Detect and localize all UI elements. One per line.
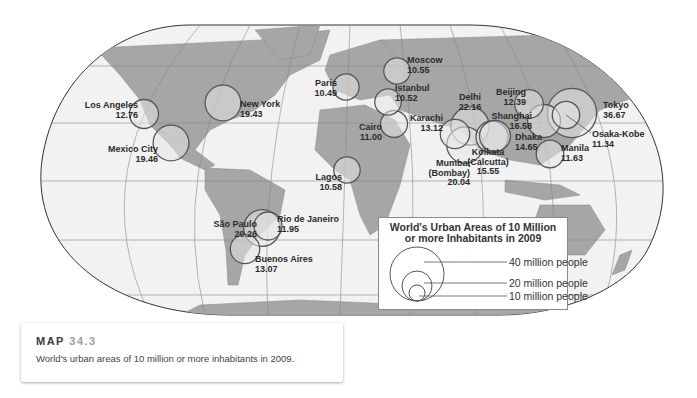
city-circle-karachi	[440, 119, 469, 148]
legend-circle-10	[409, 285, 425, 301]
city-label-delhi: Delhi22.16	[459, 92, 482, 112]
city-label-tokyo: Tokyo36.67	[603, 100, 629, 120]
caption-title: MAP 34.3	[36, 335, 97, 347]
caption-text: World's urban areas of 10 million or mor…	[36, 353, 294, 364]
map-caption: MAP 34.3 World's urban areas of 10 milli…	[21, 323, 343, 382]
legend-label-40: 40 million people	[509, 256, 588, 268]
city-label-cairo: Cairo11.00	[359, 122, 383, 142]
city-label-paris: Paris10.49	[314, 78, 337, 98]
legend: World's Urban Areas of 10 Million or mor…	[378, 217, 568, 310]
legend-circle-40	[390, 247, 444, 301]
legend-circle-20	[402, 271, 432, 301]
legend-label-10: 10 million people	[509, 290, 588, 302]
city-circle-new-york	[205, 85, 241, 121]
caption-number: 34.3	[69, 335, 96, 347]
city-circle-mexico-city	[153, 125, 189, 161]
caption-label: MAP	[36, 335, 65, 347]
city-label-lagos: Lagos10.58	[315, 172, 342, 192]
city-circle-manila	[536, 140, 564, 168]
legend-label-20: 20 million people	[509, 277, 588, 289]
